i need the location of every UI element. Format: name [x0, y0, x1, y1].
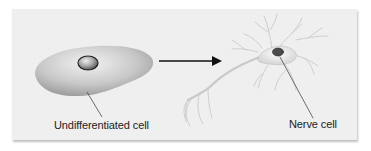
undifferentiated-cell-label: Undifferentiated cell	[54, 119, 149, 131]
label-leader-line	[87, 92, 102, 117]
nucleus-icon	[78, 56, 98, 70]
differentiation-arrow	[159, 56, 222, 66]
undifferentiated-cell	[35, 46, 153, 117]
nerve-cell-label: Nerve cell	[289, 118, 337, 130]
nerve-cell	[184, 14, 328, 126]
label-leader-line	[280, 57, 313, 118]
neuron-nucleus-icon	[273, 48, 284, 56]
